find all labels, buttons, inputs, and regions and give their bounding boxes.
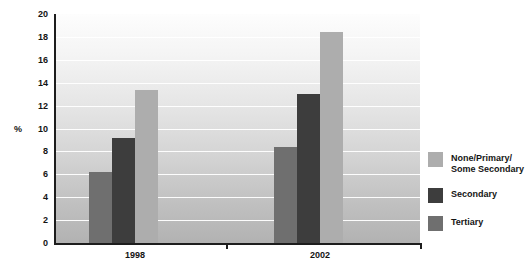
x-category-label-1998: 1998 [105,250,165,261]
y-axis-line [54,14,56,243]
x-axis-line [54,243,422,245]
bar-group-2002 [274,14,343,243]
bar-2002-secondary [297,94,320,243]
legend-label-none-primary: None/Primary/ Some Secondary [451,152,524,175]
y-tick-label-4: 4 [26,192,48,202]
legend-swatch-secondary [428,188,443,203]
bar-1998-none-primary [135,90,158,243]
legend-item-tertiary: Tertiary [428,216,529,231]
y-tick-label-6: 6 [26,169,48,179]
legend-item-none-primary: None/Primary/ Some Secondary [428,152,529,175]
y-tick-label-10: 10 [26,124,48,134]
x-axis-tick-mid [226,243,228,249]
y-tick-label-20: 20 [26,9,48,19]
bar-2002-none-primary [320,32,343,243]
x-category-label-2002: 2002 [290,250,350,261]
bar-1998-secondary [112,138,135,243]
y-tick-label-14: 14 [26,78,48,88]
bar-1998-tertiary [89,172,112,243]
legend: None/Primary/ Some Secondary Secondary T… [428,152,529,244]
legend-label-tertiary: Tertiary [451,216,483,228]
y-tick-label-16: 16 [26,55,48,65]
y-tick-label-18: 18 [26,32,48,42]
y-tick-label-2: 2 [26,215,48,225]
legend-label-secondary: Secondary [451,188,497,200]
plot-area [56,14,420,243]
legend-swatch-none-primary [428,152,443,167]
bar-2002-tertiary [274,147,297,243]
x-axis-tick-end [420,243,422,249]
y-tick-label-12: 12 [26,101,48,111]
bar-chart: % 20 18 16 14 12 10 8 6 4 2 0 199 [0,0,529,278]
bar-group-1998 [89,14,158,243]
y-axis-title: % [4,124,22,134]
y-tick-label-0: 0 [26,238,48,248]
legend-item-secondary: Secondary [428,188,529,203]
legend-swatch-tertiary [428,216,443,231]
y-tick-label-8: 8 [26,146,48,156]
